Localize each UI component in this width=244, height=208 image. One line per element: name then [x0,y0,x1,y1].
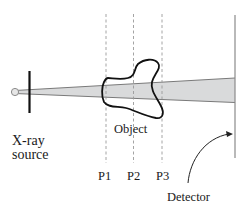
xray-source-icon [11,88,18,95]
xray-beam [15,78,235,103]
xray-source-label-line2: source [12,148,49,162]
arrowhead-icon [226,131,233,137]
xray-source-label: X-ray source [12,134,49,162]
xray-diagram [0,0,244,208]
plane-p1-label: P1 [98,170,111,183]
plane-p2-label: P2 [127,170,140,183]
object-label: Object [114,123,147,136]
xray-source-label-line1: X-ray [12,134,49,148]
detector-pointer-arrow [188,134,229,183]
plane-p3-label: P3 [156,170,169,183]
detector-label: Detector [167,191,210,204]
